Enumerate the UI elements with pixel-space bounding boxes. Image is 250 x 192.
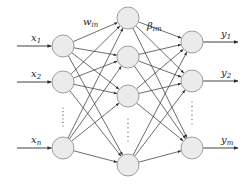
input-hidden-edge (69, 66, 121, 139)
hidden-output-edge (139, 84, 181, 94)
weight-label-beta-im: βim (146, 20, 162, 33)
input-label-xn: xn (31, 134, 42, 147)
output-ellipsis-dot (191, 110, 192, 111)
hidden-node-2 (117, 46, 139, 68)
input-hidden-edge (74, 151, 117, 162)
input-ellipsis-dot (62, 107, 63, 108)
output-ellipsis-dot (191, 123, 192, 124)
input-ellipsis-dot (62, 122, 63, 123)
input-ellipsis-dot (62, 111, 63, 112)
hidden-output-edge (139, 45, 181, 55)
input-hidden-edge (73, 61, 117, 78)
hidden-output-edge (139, 151, 181, 162)
output-ellipsis-dot (191, 115, 192, 116)
hidden-output-edge (135, 90, 185, 156)
input-node-2 (52, 71, 74, 93)
output-ellipsis-dot (191, 106, 192, 107)
output-label-y1: y1 (220, 28, 231, 41)
output-node-2 (181, 70, 203, 92)
hidden-ellipsis-dot (127, 132, 128, 133)
hidden-ellipsis-dot (127, 136, 128, 137)
hidden-ellipsis-dot (127, 123, 128, 124)
output-label-ym: ym (220, 134, 234, 147)
output-ellipsis-dot (191, 119, 192, 120)
hidden-node-3 (117, 85, 139, 107)
hidden-node-1 (117, 7, 139, 29)
output-node-1 (181, 31, 203, 53)
hidden-ellipsis-dot (127, 118, 128, 119)
hidden-output-edge (134, 66, 185, 139)
input-ellipsis-dot (62, 125, 63, 126)
neural-network-diagram: x1x2xny1y2ymwinβim (0, 0, 250, 192)
hidden-ellipsis-dot (127, 140, 128, 141)
hidden-node-4 (117, 154, 139, 176)
input-node-3 (52, 137, 74, 159)
neuron-nodes (52, 7, 203, 176)
hidden-output-edge (133, 52, 187, 155)
input-ellipsis-dot (62, 115, 63, 116)
output-label-y2: y2 (220, 67, 232, 80)
input-hidden-edge (70, 91, 121, 156)
output-ellipsis-dot (191, 101, 192, 102)
hidden-output-edge (133, 28, 187, 138)
input-ellipsis-dot (62, 118, 63, 119)
hidden-ellipsis-dot (127, 127, 128, 128)
output-node-3 (181, 137, 203, 159)
input-node-1 (52, 35, 74, 57)
weight-label-w-in: win (83, 16, 99, 29)
input-label-x2: x2 (31, 68, 42, 81)
input-hidden-edge (74, 84, 117, 93)
input-hidden-edge (71, 26, 120, 74)
input-label-x1: x1 (31, 32, 41, 45)
